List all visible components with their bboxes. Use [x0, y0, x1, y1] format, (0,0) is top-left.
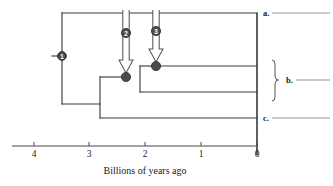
axis-tick-label-0: 0 — [255, 150, 260, 160]
taxon-label-b: b. — [286, 76, 293, 85]
axis-tick-label-1: 1 — [199, 150, 204, 160]
axis-tick-label-2: 2 — [143, 150, 148, 160]
node-2-endosymbiosis — [121, 72, 130, 81]
node-3-endosymbiosis — [151, 61, 160, 70]
axis-title: Billions of years ago — [0, 166, 290, 176]
event-marker-2 — [121, 28, 130, 37]
clade-b-bracket — [272, 60, 279, 101]
event-marker-3 — [151, 26, 160, 35]
phylogenetic-tree-figure: 43210 Billions of years ago a.b.c. 123 — [0, 0, 333, 186]
axis-ticks — [34, 142, 257, 146]
arrow-event-2 — [119, 10, 133, 73]
arrow-event-3 — [149, 10, 163, 62]
label-leader-lines — [272, 13, 330, 118]
event-marker-1 — [58, 52, 66, 60]
clade-b-curly-brace — [272, 60, 279, 101]
axis-tick-label-3: 3 — [87, 150, 92, 160]
axis-tick-label-4: 4 — [32, 150, 37, 160]
taxon-label-c: c. — [263, 114, 269, 123]
taxon-label-a: a. — [263, 9, 269, 18]
tree-diagram-svg — [0, 0, 333, 186]
event-marker-circles — [58, 26, 161, 60]
